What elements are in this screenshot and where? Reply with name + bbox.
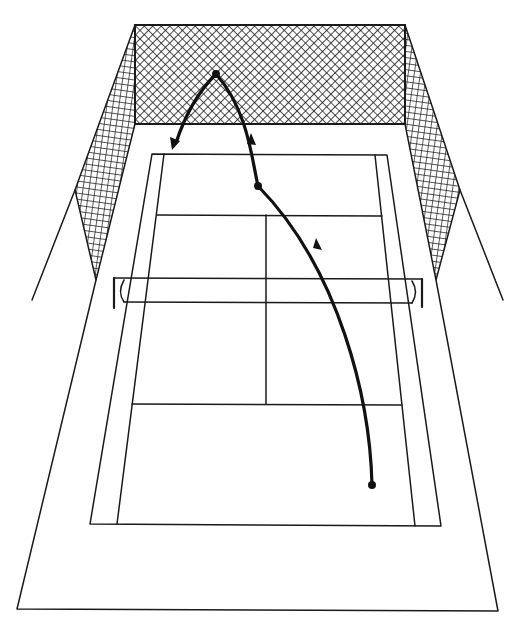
net-strap-left: [121, 280, 125, 302]
start-dot: [368, 481, 376, 489]
tennis-court-diagram: Tennis lob shot trajectory onto back net…: [0, 0, 532, 637]
service-lines: [132, 215, 402, 405]
bounce-dot: [254, 182, 262, 190]
diagram-canvas: [0, 0, 532, 637]
side-net-right: [405, 25, 460, 280]
apex-dot: [212, 70, 220, 78]
net-strap-right: [412, 281, 416, 303]
side-net-left: [75, 25, 135, 280]
tennis-net: [114, 278, 422, 308]
back-net: [135, 25, 405, 124]
surround: [17, 280, 498, 611]
arrow-icon: [313, 238, 322, 250]
